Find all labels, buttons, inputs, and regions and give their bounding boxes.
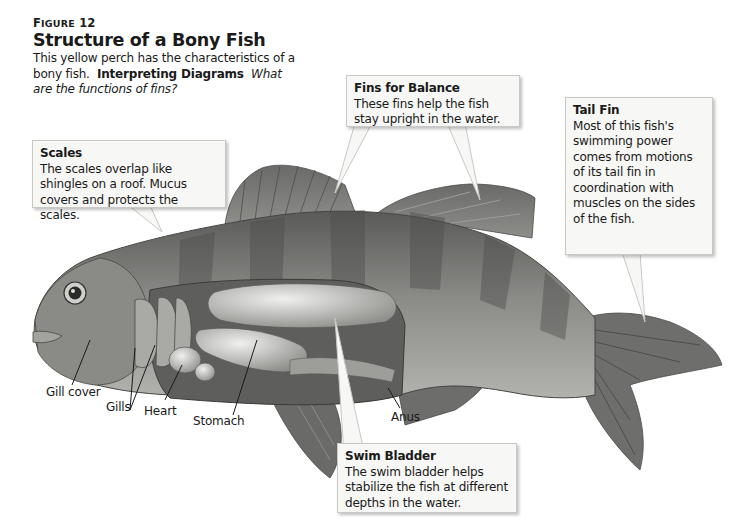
label-heart: Heart — [144, 404, 176, 418]
tail-fin-pointer — [622, 252, 645, 322]
callout-text: The swim bladder helps stabilize the fis… — [345, 465, 508, 510]
label-stomach: Stomach — [193, 414, 245, 428]
callout-scales: Scales The scales overlap like shingles … — [32, 140, 226, 208]
callout-title: Scales — [40, 146, 218, 162]
tail-fin — [585, 313, 722, 470]
callout-tail-fin: Tail Fin Most of this fish's swimming po… — [565, 97, 713, 255]
callout-title: Fins for Balance — [354, 81, 512, 97]
swim-bladder — [208, 284, 396, 328]
fins-balance-pointer-left — [335, 123, 372, 193]
callout-text: The scales overlap like shingles on a ro… — [40, 162, 187, 223]
callout-swim-bladder: Swim Bladder The swim bladder helps stab… — [337, 443, 517, 513]
label-anus: Anus — [391, 410, 420, 424]
label-gills: Gills — [106, 400, 131, 414]
callout-title: Swim Bladder — [345, 449, 509, 465]
callout-text: Most of this fish's swimming power comes… — [573, 119, 695, 226]
callout-text: These fins help the fish stay upright in… — [354, 97, 500, 127]
callout-fins-for-balance: Fins for Balance These fins help the fis… — [346, 75, 520, 127]
callout-title: Tail Fin — [573, 103, 705, 119]
fish-head — [35, 258, 150, 385]
label-gill-cover: Gill cover — [46, 385, 100, 399]
